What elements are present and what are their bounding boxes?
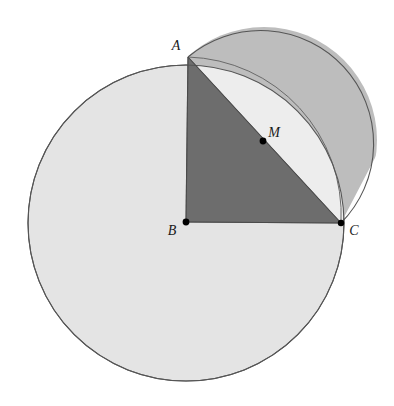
- label-c: C: [349, 223, 359, 238]
- label-b: B: [168, 223, 177, 238]
- label-a: A: [171, 38, 181, 53]
- point-b-dot: [183, 219, 190, 226]
- label-m: M: [267, 125, 281, 140]
- point-m-dot: [260, 138, 267, 145]
- geometry-figure-canvas: A B C M: [0, 0, 394, 406]
- geometry-diagram: A B C M: [0, 0, 394, 406]
- point-c-dot: [338, 220, 344, 226]
